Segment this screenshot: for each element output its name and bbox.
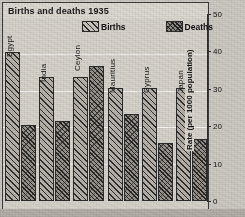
legend-label-births: Births [101,22,126,32]
axis-tick [207,126,211,127]
chart-figure: Births and deaths 1935 EgyptIndiaCeylonM… [0,0,245,217]
bar-india-births [39,77,54,201]
y-axis: 50403020100 Rate (per 1000 population) [207,2,245,209]
y-axis-title: Rate (per 1000 population) [185,49,194,151]
axis-tick-label-0: 0 [213,197,217,206]
bar-ceylon-deaths [89,66,104,201]
plot-area: EgyptIndiaCeylonMauritiusCyprusJapan [3,19,208,209]
category-label-egypt: Egypt [5,35,14,56]
plot-frame: EgyptIndiaCeylonMauritiusCyprusJapan [2,19,209,210]
axis-tick-label-40: 40 [213,47,222,56]
axis-tick-label-50: 50 [213,10,222,19]
legend-item-deaths[interactable]: Deaths [166,21,213,32]
axis-tick [207,51,211,52]
axis-tick-label-30: 30 [213,84,222,93]
axis-tick-label-20: 20 [213,122,222,131]
chart-legend: Births Deaths [82,21,213,32]
figure-bottom-strip [0,209,245,217]
legend-item-births[interactable]: Births [82,21,126,32]
chart-title-bar: Births and deaths 1935 [2,2,209,20]
y-axis-line [207,14,208,201]
bar-cyprus-deaths [158,143,173,201]
bar-mauritius-deaths [124,114,139,201]
category-label-india: India [39,64,48,82]
bar-egypt-births [5,52,20,201]
legend-label-deaths: Deaths [185,22,213,32]
axis-tick [207,89,211,90]
bar-mauritius-births [108,88,123,201]
births-swatch-icon [82,21,99,32]
bar-japan-deaths [192,139,207,201]
axis-tick [207,14,211,15]
category-label-japan: Japan [176,70,185,93]
category-label-cyprus: Cyprus [142,67,151,94]
axis-tick-label-10: 10 [213,159,222,168]
page-title: Births and deaths 1935 [3,6,109,16]
axis-tick [207,201,211,202]
deaths-swatch-icon [166,21,183,32]
bar-egypt-deaths [21,125,36,201]
axis-tick [207,164,211,165]
bar-ceylon-births [73,77,88,201]
category-label-mauritius: Mauritius [108,59,117,93]
bar-cyprus-births [142,88,157,201]
gridline [3,54,208,55]
category-label-ceylon: Ceylon [73,45,82,71]
bar-india-deaths [55,121,70,201]
